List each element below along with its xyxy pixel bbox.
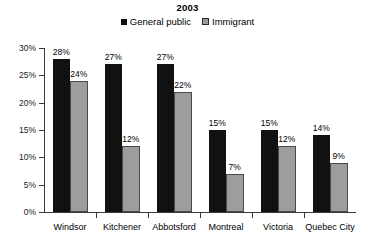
- x-axis-category-label: Kitchener: [96, 222, 148, 232]
- y-axis-line: [44, 48, 45, 213]
- x-axis-tick: [96, 213, 97, 218]
- bar-windsor-immigrant: [70, 81, 88, 212]
- y-axis-tick: [39, 212, 44, 213]
- bar-value-label: 15%: [255, 118, 285, 128]
- bar-value-label: 27%: [99, 52, 129, 62]
- plot-area: 0%5%10%15%20%25%30% WindsorKitchenerAbbo…: [0, 0, 375, 243]
- y-axis-tick: [39, 48, 44, 49]
- bar-kitchener-immigrant: [122, 146, 140, 212]
- y-axis-tick-label: 25%: [2, 70, 36, 80]
- y-axis-tick: [39, 75, 44, 76]
- bar-montreal-immigrant: [226, 174, 244, 212]
- bar-value-label: 28%: [47, 47, 77, 57]
- bar-victoria-immigrant: [278, 146, 296, 212]
- y-axis-tick: [39, 103, 44, 104]
- y-axis-tick-label: 5%: [2, 180, 36, 190]
- x-axis-tick: [304, 213, 305, 218]
- y-axis-tick-label: 0%: [2, 207, 36, 217]
- x-axis-tick: [200, 213, 201, 218]
- x-axis-category-label: Quebec City: [304, 222, 356, 232]
- bar-value-label: 14%: [307, 123, 337, 133]
- x-axis-tick: [148, 213, 149, 218]
- bar-value-label: 7%: [220, 162, 250, 172]
- bar-value-label: 24%: [64, 69, 94, 79]
- bar-value-label: 12%: [116, 134, 146, 144]
- x-axis-category-label: Abbotsford: [148, 222, 200, 232]
- x-axis-category-label: Victoria: [252, 222, 304, 232]
- y-axis-tick-label: 15%: [2, 125, 36, 135]
- bar-value-label: 9%: [324, 151, 354, 161]
- x-axis-category-label: Windsor: [44, 222, 96, 232]
- bar-value-label: 27%: [151, 52, 181, 62]
- x-axis-category-label: Montreal: [200, 222, 252, 232]
- y-axis-tick: [39, 130, 44, 131]
- bar-value-label: 12%: [272, 134, 302, 144]
- bar-quebec-city-immigrant: [330, 163, 348, 212]
- bar-windsor-general-public: [53, 59, 71, 212]
- y-axis-tick-label: 10%: [2, 152, 36, 162]
- bar-value-label: 22%: [168, 80, 198, 90]
- y-axis-tick-label: 20%: [2, 98, 36, 108]
- y-axis-tick: [39, 185, 44, 186]
- x-axis-tick: [252, 213, 253, 218]
- bar-chart: 2003 General public Immigrant 0%5%10%15%…: [0, 0, 375, 243]
- y-axis-tick-label: 30%: [2, 43, 36, 53]
- bar-value-label: 15%: [203, 118, 233, 128]
- y-axis-tick: [39, 157, 44, 158]
- bar-abbotsford-immigrant: [174, 92, 192, 212]
- bar-quebec-city-general-public: [313, 135, 331, 212]
